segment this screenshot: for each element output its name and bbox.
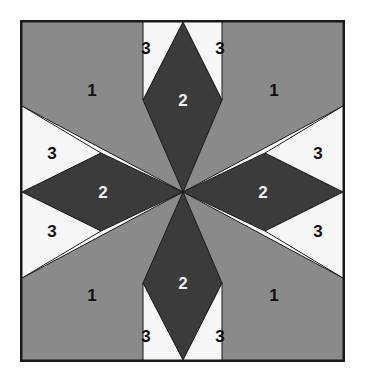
regions-layer [22, 22, 343, 360]
star-diagram-canvas: 1111222233333333 [0, 0, 365, 387]
star-diagram-figure: 1111222233333333 [0, 0, 365, 387]
